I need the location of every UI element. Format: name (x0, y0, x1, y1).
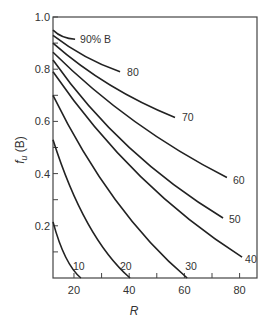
curves (53, 30, 242, 278)
curve-label: 30 (185, 260, 197, 272)
curve-label: 80 (127, 66, 139, 78)
curve-label: 10 (73, 260, 85, 272)
y-axis-title-group: fu (B) (13, 136, 29, 164)
curve-label: 50 (229, 213, 241, 225)
x-tick-label: 40 (123, 284, 135, 296)
x-tick-label: 80 (233, 284, 245, 296)
y-tick-label: 0.8 (35, 63, 50, 75)
curve-label: 60 (233, 174, 245, 186)
curve-60 (53, 52, 227, 177)
y-tick-label: 0.6 (35, 115, 50, 127)
y-tick-label: 0.2 (35, 220, 50, 232)
curve-label: 40 (245, 253, 257, 265)
chart: 204060800.20.40.60.81.0 90% B80706050403… (0, 0, 269, 328)
y-tick-label: 0.4 (35, 168, 50, 180)
x-axis-title: R (130, 304, 139, 318)
y-tick-label: 1.0 (35, 11, 50, 23)
curve-20 (53, 140, 130, 278)
x-tick-label: 20 (68, 284, 80, 296)
x-tick-label: 60 (178, 284, 190, 296)
curve-50 (53, 60, 223, 218)
curve-labels: 90% B8070605040302010 (73, 33, 257, 272)
curve-30 (53, 95, 187, 278)
y-axis-title: fu (B) (13, 136, 29, 164)
curve-label: 70 (182, 111, 194, 123)
curve-label: 20 (120, 260, 132, 272)
curve-label: 90% B (80, 33, 111, 45)
